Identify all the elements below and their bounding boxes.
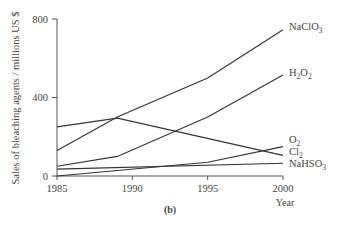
y-axis-label: Sales of bleaching agents / millions US … [10, 12, 21, 185]
chart: 04008001985199019952000 NaClO3​H2​O2​O2​… [0, 0, 337, 231]
y-tick-label: 800 [32, 14, 48, 25]
series-line-naclo3 [57, 30, 283, 151]
series-line-h2o2 [57, 75, 283, 166]
y-tick-label: 400 [32, 92, 48, 103]
series-label-naclo3: NaClO3​ [289, 21, 323, 35]
x-tick-label: 1985 [47, 183, 68, 194]
series-label-nahso3: NaHSO3​ [289, 158, 326, 172]
y-tick-label: 0 [43, 171, 48, 182]
series-line-cl2 [57, 118, 283, 155]
x-tick-label: 1990 [122, 183, 143, 194]
x-tick-label: 1995 [197, 183, 218, 194]
caption: (b) [164, 204, 176, 216]
x-axis-label: Year [276, 197, 295, 208]
series-line-o2 [57, 147, 283, 176]
x-tick-label: 2000 [273, 183, 294, 194]
series-line-nahso3 [57, 163, 283, 169]
series-label-h2o2: H2​O2​ [289, 67, 312, 81]
axes [57, 19, 283, 176]
